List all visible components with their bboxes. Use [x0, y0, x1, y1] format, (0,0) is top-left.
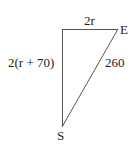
label-left-edge: 2(r + 70) [8, 56, 54, 69]
label-vertex-e: E [120, 23, 128, 36]
label-top-edge: 2r [84, 14, 95, 27]
right-triangle [0, 0, 140, 148]
edge-hypotenuse [62, 29, 118, 127]
label-vertex-s: S [57, 129, 64, 142]
label-hypotenuse: 260 [105, 56, 125, 69]
